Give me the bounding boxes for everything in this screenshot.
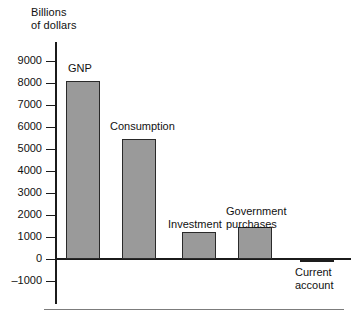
y-axis-line (55, 42, 57, 304)
y-tick-5000 (46, 149, 55, 150)
y-tick-label-5000: 5000 (18, 143, 42, 154)
bar-chart: Billions of dollars 90008000700060005000… (0, 0, 353, 316)
y-tick-label-9000: 9000 (18, 55, 42, 66)
bar-investment (182, 232, 216, 260)
y-tick-label-7000: 7000 (18, 99, 42, 110)
bar-label-gnp: GNP (68, 62, 148, 75)
y-tick-4000 (46, 171, 55, 172)
y-tick-label-0: 0 (36, 253, 42, 264)
y-tick-label-4000: 4000 (18, 165, 42, 176)
y-tick-7000 (46, 105, 55, 106)
y-tick-8000 (46, 83, 55, 84)
bar-label-consumption: Consumption (110, 120, 205, 133)
y-tick-label-2000: 2000 (18, 209, 42, 220)
bar-current-account (300, 259, 334, 262)
y-tick--1000 (46, 281, 55, 282)
y-tick-label--1000: –1000 (11, 275, 42, 286)
y-tick-label-3000: 3000 (18, 187, 42, 198)
bar-consumption (122, 139, 156, 259)
y-tick-1000 (46, 237, 55, 238)
y-tick-2000 (46, 215, 55, 216)
y-tick-label-1000: 1000 (18, 231, 42, 242)
y-tick-label-8000: 8000 (18, 77, 42, 88)
y-tick-3000 (46, 193, 55, 194)
y-tick-label-6000: 6000 (18, 121, 42, 132)
y-tick-6000 (46, 127, 55, 128)
y-axis-title: Billions of dollars (31, 6, 77, 32)
y-tick-0 (46, 259, 55, 260)
bar-label-government-purchases: Government purchases (226, 205, 306, 231)
bar-label-current-account: Current account (295, 266, 353, 292)
bottom-rule (44, 309, 344, 310)
y-tick-9000 (46, 61, 55, 62)
bar-gnp (66, 81, 100, 259)
bar-government-purchases (238, 227, 272, 259)
